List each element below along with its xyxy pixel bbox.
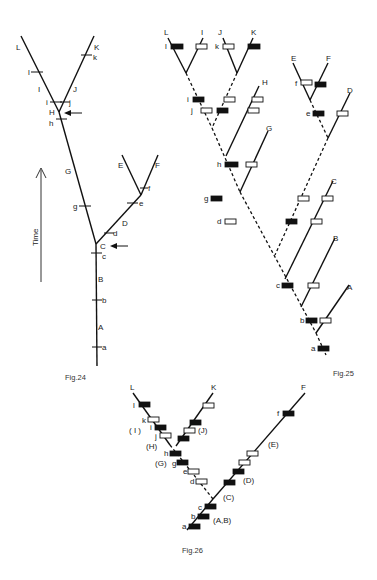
label-c: c [198,503,202,512]
ancestral-character-box [201,108,212,113]
label-c: c [102,252,106,261]
branch-line [223,38,237,73]
derived-character-box [233,469,244,474]
label-e: e [183,467,188,476]
branch-line [316,285,349,333]
derived-character-box [225,162,238,167]
derived-character-box [315,82,326,87]
label-l: l [165,42,167,51]
derived-character-box [282,283,293,288]
trunk [96,244,97,366]
label-K: K [251,28,257,37]
branch-K [59,36,94,112]
label-j: j [154,432,157,441]
label-L: L [16,43,21,52]
label-D: D [122,219,128,228]
label-B: B [98,275,103,284]
branch-D [96,195,141,244]
derived-character-box [211,196,222,201]
ancestral-character-box [308,283,319,288]
derived-character-box [217,108,228,113]
derived-character-box [306,318,317,323]
ancestral-character-box [239,460,250,465]
fig25-cladogram: L I J K l k i j H G h g d E F f e D C B … [164,28,354,378]
label-D: D [347,86,353,95]
derived-character-box [178,436,189,441]
derived-character-box [189,524,200,529]
label-A: A [347,283,353,292]
label-C: (C) [223,493,234,502]
label-f: f [295,79,298,88]
ancestral-character-box [246,162,257,167]
derived-character-box [190,420,201,425]
branch-line [240,131,268,192]
dashed-branch-line [310,100,328,138]
ancestral-character-box [248,108,259,113]
label-L: L [164,28,169,37]
label-G: G [266,124,272,133]
label-J: J [73,85,77,94]
derived-character-box [193,97,204,102]
ancestral-character-box [224,97,235,102]
label-B: B [333,234,338,243]
label-i: i [46,98,48,107]
ancestral-character-box [203,403,214,408]
branch-line [310,63,328,100]
label-j: j [68,98,71,107]
ancestral-character-box [188,469,199,474]
label-J: (J) [198,426,208,435]
derived-character-box [313,111,324,116]
label-d: d [113,229,117,238]
label-e: e [139,199,144,208]
label-K: K [211,383,217,392]
derived-character-box [198,514,209,519]
ancestral-character-box [252,97,263,102]
ancestral-character-box [247,451,258,456]
branch-line [226,86,259,156]
label-F: F [326,54,331,63]
branch-line [301,238,335,307]
branch-G [59,112,96,244]
derived-character-box [177,460,188,465]
label-j: j [190,106,193,115]
ancestral-character-box [196,479,207,484]
derived-character-box [170,451,181,456]
ancestral-character-box [148,417,159,422]
derived-character-box [318,346,329,351]
label-l: l [133,401,135,410]
label-h: h [217,160,221,169]
label-G: G [65,167,71,176]
fig24-evolutionary-tree: Time L K k l I J i j H [16,36,160,382]
fig26-cladogram: L K F l k i j ( I ) (J) (H) h (G) g e d … [129,383,306,555]
label-H: H [49,108,55,117]
label-g: g [204,194,208,203]
derived-character-box [283,411,294,416]
label-k: k [93,53,98,62]
label-e: e [306,109,311,118]
dashed-branch-line [316,333,326,355]
derived-character-box [205,504,216,509]
label-I: ( I ) [129,426,141,435]
label-l: l [28,68,30,77]
label-F: F [301,383,306,392]
label-b: b [191,512,196,521]
cladogram-figures: Time L K k l I J i j H [0,0,377,580]
label-i: i [150,423,152,432]
pointer-arrow-icon [64,110,71,116]
ancestral-character-box [298,196,309,201]
label-F: F [155,161,160,170]
derived-character-box [224,480,235,485]
label-H: H [262,78,268,87]
label-A: A [98,323,104,332]
label-E: (E) [268,440,279,449]
label-I: I [201,28,203,37]
label-L: L [130,383,135,392]
branch-L [21,36,59,112]
label-f: f [148,184,151,193]
label-d: d [190,477,194,486]
derived-character-box [248,44,260,49]
ancestral-character-box [320,318,331,323]
derived-character-box [139,402,150,407]
label-k: k [215,42,220,51]
label-E: E [118,161,123,170]
